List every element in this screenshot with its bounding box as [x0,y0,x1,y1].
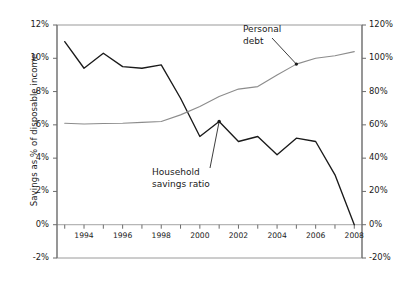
y-axis-right-tick-label: 20% [369,185,403,195]
y-axis-right-tick-label: 100% [369,52,403,62]
annotation-pointer-personal-debt [295,62,298,65]
y-axis-left-tick-label: 0% [17,219,49,229]
annotation-household-savings-line2: savings ratio [152,179,210,191]
annotation-personal-debt-line1: Personal [243,24,281,36]
y-axis-left-tick-label: 2% [17,185,49,195]
y-axis-right-tick-label: 80% [369,86,403,96]
annotation-pointer-household-savings-ratio [217,120,220,123]
y-axis-right-tick-label: 60% [369,119,403,129]
annotation-leader-household-savings-ratio [210,122,219,168]
y-axis-right-tick-label: -20% [369,252,403,262]
y-axis-left-tick-label: 6% [17,119,49,129]
x-axis-tick-label: 2006 [298,231,334,240]
chart-container: Savings as % of disposable income Person… [0,0,419,287]
annotation-personal-debt: Personal debt [243,24,281,47]
x-axis-tick-label: 1994 [66,231,102,240]
y-axis-left-tick-label: 8% [17,86,49,96]
x-axis-tick-label: 1996 [105,231,141,240]
y-axis-left-tick-label: -2% [17,252,49,262]
annotation-household-savings-ratio: Household savings ratio [152,167,210,190]
x-axis-tick-label: 2002 [220,231,256,240]
y-axis-right-tick-label: 120% [369,19,403,29]
y-axis-left-tick-label: 4% [17,152,49,162]
x-axis-tick-label: 2004 [259,231,295,240]
x-axis-tick-label: 1998 [143,231,179,240]
y-axis-left-tick-label: 12% [17,19,49,29]
annotation-personal-debt-line2: debt [243,36,281,48]
x-axis-tick-label: 2000 [182,231,218,240]
x-axis-tick-label: 2008 [336,231,372,240]
y-axis-left-tick-label: 10% [17,52,49,62]
series-line-personal-debt [65,52,355,124]
y-axis-right-tick-label: 40% [369,152,403,162]
annotation-household-savings-line1: Household [152,167,210,179]
plot-area [0,0,419,287]
series-line-household-savings-ratio [65,42,355,225]
y-axis-right-tick-label: 0% [369,219,403,229]
